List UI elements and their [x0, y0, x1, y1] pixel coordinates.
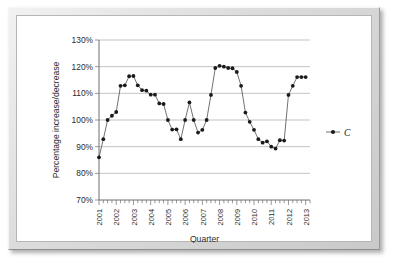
data-point	[123, 83, 127, 87]
data-point	[248, 120, 252, 124]
data-point	[114, 110, 118, 114]
data-point	[162, 102, 166, 106]
data-point	[106, 118, 110, 122]
x-tick-label: 2010	[250, 209, 259, 225]
data-point	[205, 118, 209, 122]
data-point	[222, 65, 226, 69]
data-point	[200, 128, 204, 132]
data-point	[119, 84, 123, 88]
data-point	[132, 74, 136, 78]
legend-marker-dot	[331, 130, 335, 134]
x-tick-label: 2003	[130, 209, 139, 225]
x-axis-tick-labels: 2001200220032004200520062007200820092010…	[95, 209, 311, 225]
series-line-c	[99, 66, 306, 157]
chart-frame-inner: 70%80%90%100%110%120%130% 20012002200320…	[16, 15, 372, 242]
y-tick-label: 70%	[76, 195, 93, 205]
data-point	[213, 66, 217, 70]
y-tick-label: 130%	[72, 35, 94, 45]
x-tick-label: 2012	[285, 209, 294, 225]
y-tick-label: 90%	[76, 142, 93, 152]
data-point	[218, 64, 222, 68]
data-point	[183, 118, 187, 122]
data-point	[179, 137, 183, 141]
data-point	[97, 155, 101, 159]
y-tick-label: 100%	[72, 115, 94, 125]
data-point	[157, 102, 161, 106]
x-tick-label: 2011	[267, 209, 276, 225]
data-point	[287, 93, 291, 97]
x-tick-label: 2009	[233, 209, 242, 225]
data-point	[261, 141, 265, 145]
y-tick-label: 80%	[76, 168, 93, 178]
x-tick-label: 2002	[112, 209, 121, 225]
y-tick-label: 120%	[72, 62, 94, 72]
data-point	[101, 137, 105, 141]
data-point	[110, 114, 114, 118]
data-point	[291, 84, 295, 88]
chart-frame-outer: 70%80%90%100%110%120%130% 20012002200320…	[8, 7, 380, 250]
data-point	[278, 138, 282, 142]
x-tick-label: 2004	[147, 209, 156, 225]
x-axis-tick-marks	[99, 200, 310, 205]
data-point	[175, 127, 179, 131]
data-point	[149, 93, 153, 97]
x-tick-label: 2013	[302, 209, 311, 225]
chart-legend: C	[326, 127, 351, 138]
data-point	[235, 70, 239, 74]
data-point	[231, 66, 235, 70]
x-tick-label: 2005	[164, 209, 173, 225]
data-point	[269, 145, 273, 149]
data-point	[136, 83, 140, 87]
data-point	[244, 111, 248, 115]
data-point	[274, 147, 278, 151]
x-tick-label: 2008	[216, 209, 225, 225]
data-point	[166, 118, 170, 122]
x-tick-label: 2007	[199, 209, 208, 225]
gridlines-group	[95, 40, 310, 200]
chart-plot: 70%80%90%100%110%120%130% 20012002200320…	[17, 16, 373, 243]
data-point	[188, 101, 192, 105]
y-axis-title: Percentage increase/decrease	[51, 62, 61, 179]
data-point	[196, 131, 200, 135]
data-point	[140, 88, 144, 92]
y-tick-label: 110%	[72, 88, 93, 98]
data-point	[209, 93, 213, 97]
data-point	[252, 128, 256, 132]
data-point	[153, 93, 157, 97]
data-point	[295, 75, 299, 79]
series-markers-c	[97, 64, 307, 159]
data-point	[239, 84, 243, 88]
data-point	[170, 128, 174, 132]
data-point	[127, 74, 131, 78]
y-axis-tick-labels: 70%80%90%100%110%120%130%	[72, 35, 94, 205]
x-tick-label: 2006	[181, 209, 190, 225]
data-point	[265, 139, 269, 143]
data-point	[144, 89, 148, 93]
data-point	[192, 118, 196, 122]
x-axis-title: Quarter	[190, 234, 219, 243]
x-tick-label: 2001	[95, 209, 104, 225]
data-point	[226, 66, 230, 70]
data-point	[299, 75, 303, 79]
data-point	[256, 137, 260, 141]
legend-label-c: C	[344, 127, 351, 138]
data-point	[282, 139, 286, 143]
data-point	[304, 75, 308, 79]
